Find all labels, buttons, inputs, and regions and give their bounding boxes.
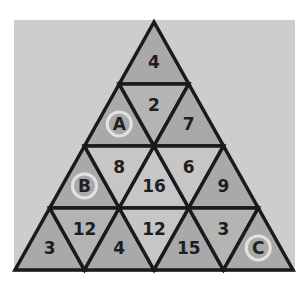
cell-number: 3 xyxy=(44,238,56,258)
cell-number: 12 xyxy=(142,219,166,239)
cell-number: 16 xyxy=(142,176,166,196)
cell-number: 4 xyxy=(148,52,160,72)
cell-number: 6 xyxy=(183,157,195,177)
cell-number: 15 xyxy=(177,238,201,258)
cell-number: 4 xyxy=(113,238,125,258)
cell-letter: B xyxy=(78,176,91,196)
cell-letter: C xyxy=(252,238,264,258)
cell-number: 2 xyxy=(148,95,160,115)
cell-number: 12 xyxy=(73,219,97,239)
cell-number: 3 xyxy=(218,219,230,239)
cell-number: 9 xyxy=(218,176,230,196)
cell-letter: A xyxy=(113,114,127,134)
triangle-number-puzzle: 4A27B81669312412153C xyxy=(0,0,307,281)
cell-number: 8 xyxy=(113,157,125,177)
number-cell: 4 xyxy=(119,22,189,84)
cell-number: 7 xyxy=(183,114,195,134)
